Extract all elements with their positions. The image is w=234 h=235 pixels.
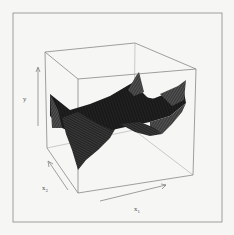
surface-plot-figure: y x2 x1 [0,0,234,235]
x1-axis-arrow [100,184,166,201]
x2-axis-label: x2 [42,184,48,193]
x1-axis-label: x1 [134,205,140,214]
x1-label-subscript: 1 [137,209,140,214]
x2-axis-arrow [48,161,68,190]
x2-label-subscript: 2 [45,188,48,193]
y-axis-label: y [22,95,27,103]
surface-mesh [50,72,186,170]
y-axis-arrow [36,67,40,126]
